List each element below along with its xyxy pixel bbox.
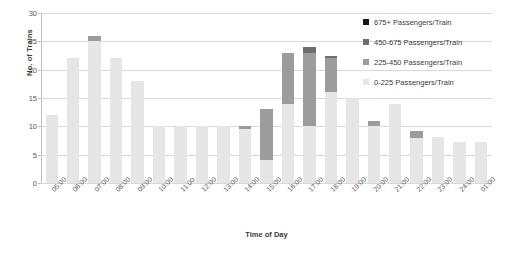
bar-segment[interactable] bbox=[325, 58, 337, 92]
bar-segment[interactable] bbox=[88, 41, 100, 183]
bar-slot[interactable] bbox=[277, 14, 298, 183]
bar-slot[interactable] bbox=[234, 14, 255, 183]
x-axis-title: Time of Day bbox=[41, 230, 492, 239]
bar-slot[interactable] bbox=[213, 14, 234, 183]
chart-legend: 675+ Passengers/Train450-675 Passengers/… bbox=[357, 10, 505, 95]
bar-segment[interactable] bbox=[410, 131, 422, 138]
bar-stack[interactable] bbox=[196, 126, 208, 183]
bar-stack[interactable] bbox=[325, 56, 337, 183]
bar-segment[interactable] bbox=[260, 160, 272, 183]
bar-stack[interactable] bbox=[46, 115, 58, 183]
bar-segment[interactable] bbox=[67, 58, 79, 183]
bar-segment[interactable] bbox=[282, 104, 294, 183]
bar-stack[interactable] bbox=[260, 109, 272, 183]
bar-stack[interactable] bbox=[432, 137, 444, 183]
bar-stack[interactable] bbox=[88, 36, 100, 183]
bar-segment[interactable] bbox=[260, 109, 272, 160]
legend-swatch-icon bbox=[363, 19, 369, 25]
legend-swatch-icon bbox=[363, 79, 369, 85]
bar-segment[interactable] bbox=[475, 142, 487, 183]
bar-stack[interactable] bbox=[110, 58, 122, 183]
legend-swatch-icon bbox=[363, 39, 369, 45]
bar-segment[interactable] bbox=[410, 138, 422, 183]
bar-segment[interactable] bbox=[196, 126, 208, 183]
bar-stack[interactable] bbox=[453, 142, 465, 183]
y-tick-label: 15 bbox=[29, 94, 37, 103]
bar-segment[interactable] bbox=[282, 53, 294, 104]
legend-label: 675+ Passengers/Train bbox=[374, 18, 451, 27]
bar-segment[interactable] bbox=[389, 104, 401, 183]
bar-stack[interactable] bbox=[174, 126, 186, 183]
bar-stack[interactable] bbox=[131, 81, 143, 183]
bar-segment[interactable] bbox=[131, 81, 143, 183]
stacked-bar-chart: No. of Trains 051015202530 05:0006:0007:… bbox=[0, 0, 509, 253]
legend-item[interactable]: 225-450 Passengers/Train bbox=[357, 52, 505, 72]
y-tick-label: 25 bbox=[29, 37, 37, 46]
bar-segment[interactable] bbox=[303, 53, 315, 127]
y-tick-label: 20 bbox=[29, 65, 37, 74]
legend-label: 225-450 Passengers/Train bbox=[374, 58, 462, 67]
bar-slot[interactable] bbox=[127, 14, 148, 183]
bar-slot[interactable] bbox=[170, 14, 191, 183]
y-tick-label: 0 bbox=[33, 179, 37, 188]
y-tick-label: 30 bbox=[29, 9, 37, 18]
bar-slot[interactable] bbox=[256, 14, 277, 183]
bar-slot[interactable] bbox=[105, 14, 126, 183]
bar-stack[interactable] bbox=[346, 98, 358, 183]
y-tick-label: 5 bbox=[33, 150, 37, 159]
bar-segment[interactable] bbox=[432, 137, 444, 183]
bar-stack[interactable] bbox=[67, 58, 79, 183]
bar-slot[interactable] bbox=[148, 14, 169, 183]
bar-stack[interactable] bbox=[239, 126, 251, 183]
x-axis-tick-labels: 05:0006:0007:0008:0009:0010:0011:0012:00… bbox=[41, 186, 492, 226]
bar-segment[interactable] bbox=[174, 126, 186, 183]
y-tick-label: 10 bbox=[29, 122, 37, 131]
bar-stack[interactable] bbox=[389, 104, 401, 183]
bar-segment[interactable] bbox=[453, 142, 465, 183]
bar-segment[interactable] bbox=[217, 126, 229, 183]
bar-stack[interactable] bbox=[217, 126, 229, 183]
bar-stack[interactable] bbox=[475, 142, 487, 183]
legend-item[interactable]: 0-225 Passengers/Train bbox=[357, 72, 505, 92]
bar-stack[interactable] bbox=[410, 131, 422, 183]
legend-label: 0-225 Passengers/Train bbox=[374, 78, 454, 87]
bar-slot[interactable] bbox=[191, 14, 212, 183]
bar-segment[interactable] bbox=[153, 126, 165, 183]
bar-slot[interactable] bbox=[41, 14, 62, 183]
bar-segment[interactable] bbox=[325, 92, 337, 183]
bar-segment[interactable] bbox=[110, 58, 122, 183]
legend-item[interactable]: 675+ Passengers/Train bbox=[357, 12, 505, 32]
bar-segment[interactable] bbox=[239, 129, 251, 183]
bar-segment[interactable] bbox=[368, 126, 380, 183]
bar-slot[interactable] bbox=[299, 14, 320, 183]
bar-stack[interactable] bbox=[153, 126, 165, 183]
bar-stack[interactable] bbox=[303, 47, 315, 183]
bar-segment[interactable] bbox=[303, 126, 315, 183]
bar-stack[interactable] bbox=[368, 121, 380, 183]
legend-item[interactable]: 450-675 Passengers/Train bbox=[357, 32, 505, 52]
bar-stack[interactable] bbox=[282, 53, 294, 183]
bar-segment[interactable] bbox=[46, 115, 58, 183]
legend-label: 450-675 Passengers/Train bbox=[374, 38, 462, 47]
bar-slot[interactable] bbox=[320, 14, 341, 183]
y-tick-mark bbox=[38, 183, 41, 184]
legend-swatch-icon bbox=[363, 59, 369, 65]
bar-slot[interactable] bbox=[84, 14, 105, 183]
bar-segment[interactable] bbox=[346, 98, 358, 183]
bar-slot[interactable] bbox=[62, 14, 83, 183]
